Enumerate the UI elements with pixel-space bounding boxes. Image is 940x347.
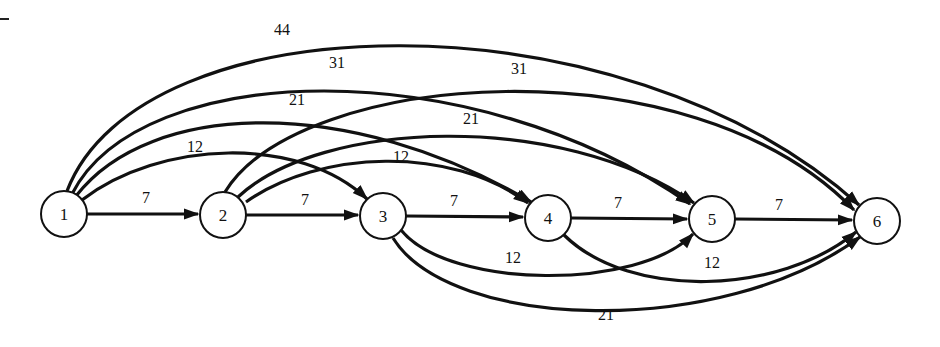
edge-label-3-4: 7 xyxy=(450,192,458,209)
node-label: 1 xyxy=(60,205,69,224)
node-label: 4 xyxy=(544,209,553,228)
edge-label-3-5: 12 xyxy=(505,249,521,266)
edge-label-2-6: 31 xyxy=(511,60,527,77)
edge-label-5-6: 7 xyxy=(775,196,783,213)
edge-label-1-4: 21 xyxy=(289,91,305,108)
node-label: 5 xyxy=(708,210,717,229)
edge-3-4 xyxy=(406,216,523,217)
edge-label-4-5: 7 xyxy=(614,194,622,211)
edge-label-2-3: 7 xyxy=(301,191,309,208)
edge-label-2-4: 12 xyxy=(393,148,409,165)
edge-label-1-6: 44 xyxy=(274,21,290,38)
edge-2-6 xyxy=(225,91,854,210)
edge-label-1-5: 31 xyxy=(329,54,345,71)
edge-5-6 xyxy=(735,219,852,220)
edge-label-2-5: 21 xyxy=(463,110,479,127)
node-label: 2 xyxy=(219,206,228,225)
node-3: 3 xyxy=(360,193,406,239)
node-label: 6 xyxy=(873,212,882,231)
edge-label-1-3: 12 xyxy=(187,138,203,155)
edge-4-5 xyxy=(571,218,687,219)
edge-label-1-2: 7 xyxy=(142,189,150,206)
edge-label-3-6: 21 xyxy=(598,306,614,323)
node-1: 1 xyxy=(41,191,87,237)
edge-3-6 xyxy=(393,237,860,311)
network-diagram: 7 12 21 31 44 7 12 21 31 7 12 21 7 12 7 … xyxy=(0,0,940,347)
node-2: 2 xyxy=(200,192,246,238)
node-6: 6 xyxy=(854,198,900,244)
edge-1-5 xyxy=(72,91,690,204)
node-5: 5 xyxy=(689,196,735,242)
edge-label-4-6: 12 xyxy=(704,254,720,271)
node-4: 4 xyxy=(525,195,571,241)
node-label: 3 xyxy=(379,207,388,226)
